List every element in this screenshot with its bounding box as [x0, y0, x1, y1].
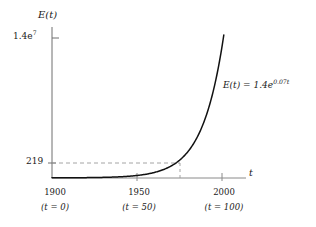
exponential-growth-chart: E(t) 1.4e7 219 t E(t) = 1.4e0.07t 1900 1…	[0, 0, 316, 227]
x-tick-label-1900: 1900	[44, 188, 66, 197]
equation-body: E(t) = 1.4e	[223, 80, 273, 90]
exponential-curve	[52, 35, 224, 178]
y-tick-upper-mantissa: 1.4e	[13, 31, 33, 41]
x-tick-sublabel-1900: (t = 0)	[41, 203, 69, 212]
y-tick-upper-exponent: 7	[33, 29, 37, 36]
equation-annotation: E(t) = 1.4e0.07t	[223, 81, 289, 90]
y-tick-label-lower: 219	[26, 157, 43, 166]
y-tick-label-upper: 1.4e7	[13, 32, 37, 41]
x-tick-label-1950: 1950	[128, 188, 150, 197]
x-axis-label: t	[249, 168, 253, 178]
x-tick-label-2000: 2000	[213, 188, 235, 197]
x-tick-sublabel-1950: (t = 50)	[122, 203, 155, 212]
x-tick-sublabel-2000: (t = 100)	[205, 203, 244, 212]
equation-exponent: 0.07t	[273, 78, 289, 85]
y-axis-label: E(t)	[38, 10, 57, 20]
